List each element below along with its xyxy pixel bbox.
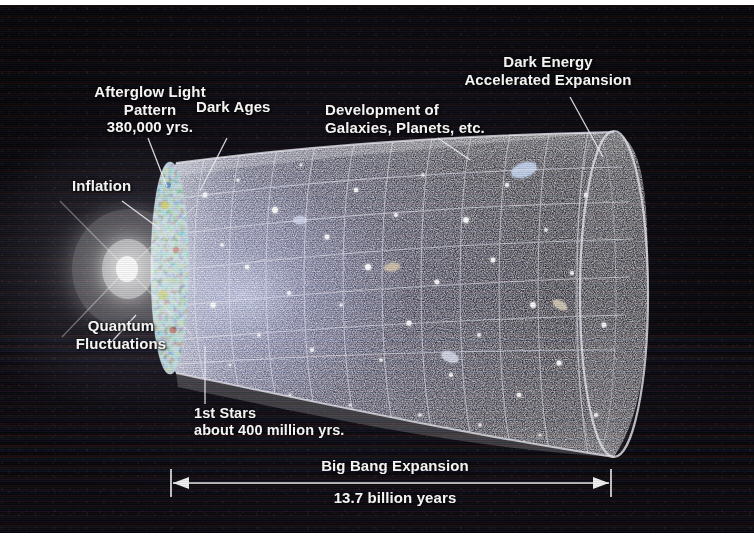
label-13-7-billion-years: 13.7 billion years xyxy=(235,489,555,507)
left-arrowhead-icon xyxy=(173,477,189,489)
figure-canvas: Afterglow Light Pattern 380,000 yrs. Dar… xyxy=(0,0,754,557)
label-development-of-galaxies: Development of Galaxies, Planets, etc. xyxy=(325,101,485,136)
label-big-bang-expansion: Big Bang Expansion xyxy=(235,457,555,475)
label-dark-energy: Dark Energy Accelerated Expansion xyxy=(452,53,644,88)
leader-afterglow xyxy=(148,138,167,187)
label-inflation: Inflation xyxy=(72,177,131,195)
page-border-bottom xyxy=(0,533,754,557)
page-border-top xyxy=(0,0,754,5)
label-dark-ages: Dark Ages xyxy=(196,98,271,116)
right-arrowhead-icon xyxy=(593,477,609,489)
label-quantum-fluctuations: Quantum Fluctuations xyxy=(60,317,182,352)
label-first-stars: 1st Stars about 400 million yrs. xyxy=(194,405,344,439)
space-background: Afterglow Light Pattern 380,000 yrs. Dar… xyxy=(0,5,754,533)
